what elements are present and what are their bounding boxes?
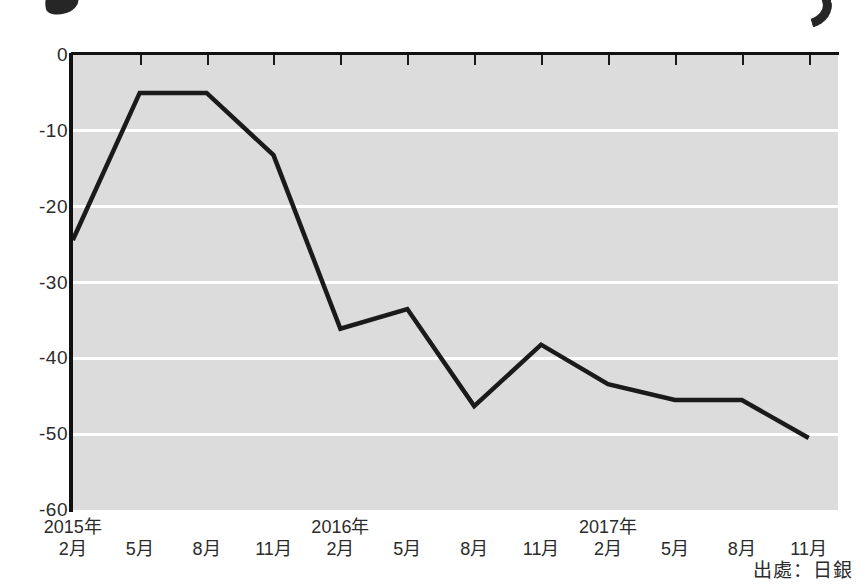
- plot-area: [72, 55, 838, 510]
- x-axis-tick-mark: [675, 55, 677, 65]
- x-axis-tick-mark: [608, 55, 610, 65]
- x-axis-tick-label: 2016年2月: [311, 516, 369, 560]
- x-axis-tick-mark: [140, 55, 142, 65]
- x-axis-tick-mark: [340, 55, 342, 65]
- x-axis-year-label: 2017年: [579, 516, 637, 538]
- x-axis-tick-label: 2017年2月: [579, 516, 637, 560]
- x-axis-month-label: 11月: [244, 538, 302, 560]
- x-axis-tick-label: 0000年11月: [780, 516, 838, 560]
- x-axis-tick-mark: [541, 55, 543, 65]
- x-axis-tick-mark: [273, 55, 275, 65]
- x-axis-month-label: 11月: [512, 538, 570, 560]
- x-axis-tick-mark: [742, 55, 744, 65]
- x-axis-tick-label: 0000年8月: [713, 516, 771, 560]
- top-axis-line: [71, 52, 839, 55]
- x-axis-tick-label: 0000年5月: [111, 516, 169, 560]
- y-axis-tick-label: -20: [6, 197, 68, 216]
- x-axis-tick-mark: [207, 55, 209, 65]
- y-axis-tick-label: 0: [6, 45, 68, 64]
- x-axis-tick-label: 0000年5月: [646, 516, 704, 560]
- data-series-line: [72, 55, 838, 510]
- x-axis-month-label: 5月: [646, 538, 704, 560]
- x-axis-tick-label: 0000年8月: [178, 516, 236, 560]
- x-axis-month-label: 5月: [111, 538, 169, 560]
- y-axis-line: [69, 53, 73, 512]
- y-axis-tick-label: -50: [6, 424, 68, 443]
- x-axis-month-label: 8月: [445, 538, 503, 560]
- x-axis-tick-mark: [474, 55, 476, 65]
- x-axis-month-label: 2月: [311, 538, 369, 560]
- line-chart-figure: 0-10-20-30-40-50-60 2015年2月0000年5月0000年8…: [0, 0, 867, 588]
- y-axis-tick-label: -40: [6, 348, 68, 367]
- x-axis-year-label: 2016年: [311, 516, 369, 538]
- y-axis-tick-label: -30: [6, 273, 68, 292]
- x-axis-tick-label: 2015年2月: [44, 516, 102, 560]
- y-axis-tick-labels: 0-10-20-30-40-50-60: [0, 0, 68, 588]
- x-axis-month-label: 8月: [178, 538, 236, 560]
- x-axis-tick-label: 0000年11月: [244, 516, 302, 560]
- y-axis-tick-label: -10: [6, 121, 68, 140]
- x-axis-month-label: 2月: [579, 538, 637, 560]
- x-axis-year-label: 2015年: [44, 516, 102, 538]
- x-axis-tick-label: 0000年5月: [378, 516, 436, 560]
- source-note: 出處：日銀: [753, 555, 853, 582]
- x-axis-month-label: 2月: [44, 538, 102, 560]
- x-axis-tick-mark: [809, 55, 811, 65]
- x-axis-month-label: 5月: [378, 538, 436, 560]
- x-axis-tick-mark: [407, 55, 409, 65]
- x-axis-tick-label: 0000年8月: [445, 516, 503, 560]
- x-axis-tick-label: 0000年11月: [512, 516, 570, 560]
